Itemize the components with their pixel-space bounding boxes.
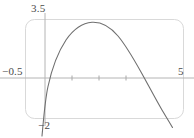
x-min-label: −0.5 — [2, 66, 23, 77]
plot-canvas — [0, 0, 194, 138]
plot-frame — [26, 20, 184, 119]
x-max-label: 5 — [178, 66, 184, 77]
y-max-label: 3.5 — [31, 3, 45, 14]
y-min-label: −2 — [38, 120, 50, 131]
graph-figure: 3.5 −0.5 5 −2 — [0, 0, 194, 138]
